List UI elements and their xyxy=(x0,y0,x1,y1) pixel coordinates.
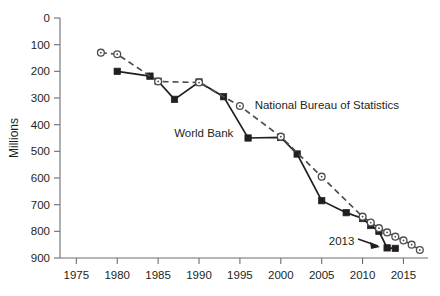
data-point-marker-dot xyxy=(198,82,200,84)
y-tick-label: 300 xyxy=(31,92,50,104)
line-chart: 9008007006005004003002001000 19751980198… xyxy=(0,0,440,296)
x-tick-label: 2005 xyxy=(309,269,335,281)
chart-container: 9008007006005004003002001000 19751980198… xyxy=(0,0,440,296)
y-tick-label: 500 xyxy=(31,145,50,157)
data-point-marker xyxy=(114,68,120,74)
data-point-marker-dot xyxy=(411,244,413,246)
y-axis-title: Millions xyxy=(7,118,21,158)
y-tick-label: 700 xyxy=(31,199,50,211)
series-national-bureau xyxy=(97,49,423,253)
data-point-marker-dot xyxy=(280,136,282,138)
y-tick-label: 600 xyxy=(31,172,50,184)
callout-arrow-group xyxy=(358,239,380,249)
data-point-marker xyxy=(245,135,251,141)
callout-arrow-head xyxy=(370,242,380,249)
x-tick-label: 2010 xyxy=(350,269,376,281)
x-tick-label: 1990 xyxy=(186,269,212,281)
x-tick-label: 2015 xyxy=(391,269,417,281)
series-world-bank xyxy=(114,68,398,251)
nbs-label: National Bureau of Statistics xyxy=(255,99,400,111)
x-tick-label: 1985 xyxy=(145,269,171,281)
x-tick-label: 1975 xyxy=(64,269,90,281)
data-point-marker-dot xyxy=(378,227,380,229)
data-point-marker-dot xyxy=(386,232,388,234)
data-point-marker-dot xyxy=(100,52,102,54)
data-point-marker-dot xyxy=(394,236,396,238)
series-group xyxy=(97,49,423,253)
data-point-marker xyxy=(392,245,398,251)
y-tick-label: 400 xyxy=(31,119,50,131)
data-point-marker xyxy=(171,96,177,102)
data-point-marker-dot xyxy=(362,216,364,218)
y-tick-label: 100 xyxy=(31,39,50,51)
x-tick-group: 197519801985199019952000200520102015 xyxy=(64,258,417,281)
x-tick-label: 1995 xyxy=(227,269,253,281)
data-point-marker-dot xyxy=(419,249,421,251)
data-point-marker-dot xyxy=(403,240,405,242)
y-tick-label: 900 xyxy=(31,252,50,264)
data-point-marker xyxy=(318,197,324,203)
data-point-marker xyxy=(343,209,349,215)
data-point-marker-dot xyxy=(157,81,159,83)
x-tick-label: 2000 xyxy=(268,269,294,281)
year-2013-callout: 2013 xyxy=(329,235,355,247)
data-point-marker-dot xyxy=(116,53,118,55)
data-point-marker-dot xyxy=(321,176,323,178)
x-tick-label: 1980 xyxy=(104,269,130,281)
data-point-marker-dot xyxy=(370,222,372,224)
data-point-marker xyxy=(384,245,390,251)
annotation-group: World BankNational Bureau of Statistics2… xyxy=(174,99,399,248)
y-tick-label: 200 xyxy=(31,65,50,77)
y-tick-group: 9008007006005004003002001000 xyxy=(31,12,60,264)
world-bank-label: World Bank xyxy=(174,127,233,139)
data-point-marker-dot xyxy=(239,105,241,107)
y-tick-label: 800 xyxy=(31,225,50,237)
y-tick-label: 0 xyxy=(44,12,50,24)
